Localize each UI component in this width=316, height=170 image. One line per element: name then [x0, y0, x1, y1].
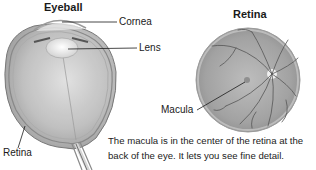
eyeball-title: Eyeball	[44, 1, 83, 13]
caption: The macula is in the center of the retin…	[108, 133, 303, 163]
retina-leader-line	[18, 126, 25, 148]
retina-label: Retina	[3, 147, 32, 158]
caption-line-2: back of the eye. It lets you see fine de…	[108, 148, 303, 163]
caption-line-1: The macula is in the center of the retin…	[108, 133, 303, 148]
macula-label: Macula	[161, 104, 193, 115]
eyeball-illustration	[0, 0, 120, 170]
retina-fundus-illustration	[196, 28, 300, 132]
cornea-label: Cornea	[119, 16, 152, 27]
lens-label: Lens	[139, 42, 161, 53]
retina-title: Retina	[233, 8, 267, 20]
